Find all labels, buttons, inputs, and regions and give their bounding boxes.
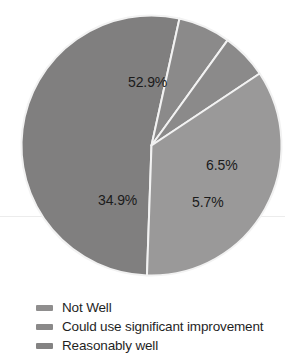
slice-label-34-9: 34.9% [98, 192, 137, 208]
pie-slices [22, 15, 282, 275]
pie-chart-figure: 52.9% 6.5% 5.7% 34.9% Not Well Could use… [0, 0, 285, 360]
legend-item-label: Not Well [62, 298, 112, 317]
slice-label-5-7: 5.7% [192, 194, 224, 210]
pie-svg [0, 0, 285, 292]
chart-legend: Not Well Could use significant improveme… [36, 298, 285, 355]
legend-item-label: Reasonably well [62, 336, 158, 355]
legend-swatch-icon [36, 343, 53, 349]
legend-item-reasonably-well[interactable]: Reasonably well [36, 336, 285, 355]
legend-item-label: Could use significant improvement [62, 317, 263, 336]
legend-swatch-icon [36, 324, 53, 330]
legend-swatch-icon [36, 305, 53, 311]
slice-label-6-5: 6.5% [206, 157, 238, 173]
legend-item-not-well[interactable]: Not Well [36, 298, 285, 317]
pie-plot-area: 52.9% 6.5% 5.7% 34.9% [0, 0, 285, 292]
slice-label-52-9: 52.9% [128, 74, 167, 90]
legend-item-could-use-significant-improvement[interactable]: Could use significant improvement [36, 317, 285, 336]
